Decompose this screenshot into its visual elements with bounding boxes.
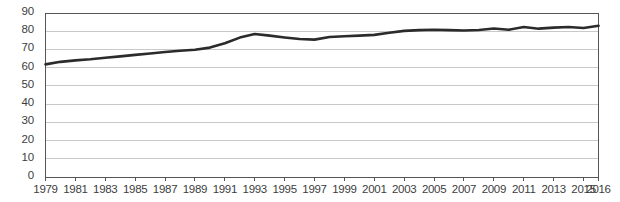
y-tick-label-60: 60 <box>8 60 34 72</box>
y-tick-label-10: 10 <box>8 151 34 163</box>
line-chart: 0102030405060708090 19791981198319851987… <box>0 0 620 202</box>
y-tick-label-20: 20 <box>8 133 34 145</box>
chart-plot-area <box>0 0 620 202</box>
y-tick-label-50: 50 <box>8 78 34 90</box>
y-tick-label-40: 40 <box>8 96 34 108</box>
y-tick-label-80: 80 <box>8 23 34 35</box>
y-tick-label-30: 30 <box>8 114 34 126</box>
y-tick-label-0: 0 <box>8 169 34 181</box>
x-tick-label-2016: 2016 <box>579 183 619 195</box>
y-tick-label-90: 90 <box>8 5 34 17</box>
y-tick-label-70: 70 <box>8 41 34 53</box>
